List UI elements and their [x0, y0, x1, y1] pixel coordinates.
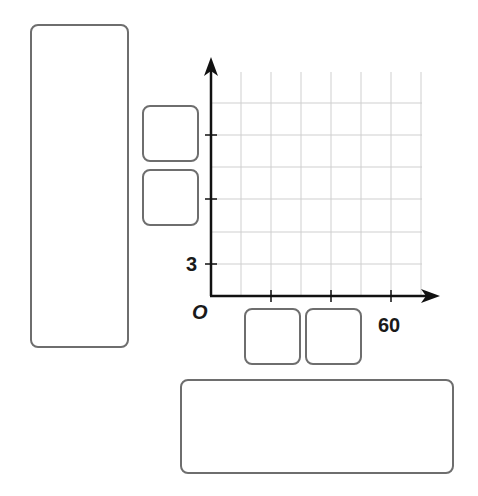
axes	[210, 66, 430, 296]
y-tick-label-3: 3	[186, 254, 197, 274]
origin-label: O	[192, 302, 208, 322]
axis-ticks	[205, 135, 391, 302]
coordinate-grid	[0, 0, 478, 496]
grid-lines	[211, 72, 422, 296]
x-tick-label-60: 60	[378, 315, 400, 335]
